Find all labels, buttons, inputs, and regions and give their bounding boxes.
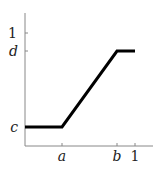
y-label-c: c xyxy=(10,119,18,135)
x-label-b: b xyxy=(113,148,122,164)
x-label-one: 1 xyxy=(131,148,140,164)
y-label-d: d xyxy=(9,43,18,59)
x-label-a: a xyxy=(58,148,66,164)
data-line xyxy=(25,51,135,127)
y-label-one: 1 xyxy=(8,25,17,41)
piecewise-linear-chart: 1 d c a b 1 xyxy=(0,0,162,170)
